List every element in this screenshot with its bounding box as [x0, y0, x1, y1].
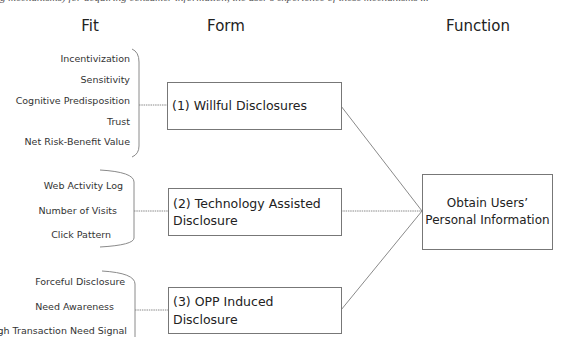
form-box-opp-induced-disclosure: (3) OPP Induced Disclosure	[168, 287, 342, 334]
fit-item: High Transaction Need Signal	[0, 325, 127, 336]
form-label: (3) OPP Induced Disclosure	[173, 293, 341, 328]
header-form: Form	[207, 17, 245, 35]
form-label: (1) Willful Disclosures	[172, 97, 307, 115]
form-to-function-3	[341, 211, 422, 310]
form-box-willful-disclosures: (1) Willful Disclosures	[167, 82, 342, 130]
function-box-obtain-personal-information: Obtain Users’ Personal Information	[422, 174, 553, 250]
fit-item: Forceful Disclosure	[35, 276, 125, 287]
form-to-function-1	[341, 106, 422, 211]
fit-bracket-1	[132, 49, 139, 157]
form-box-technology-assisted-disclosure: (2) Technology Assisted Disclosure	[168, 188, 342, 236]
header-function: Function	[446, 17, 510, 35]
fit-item: Need Awareness	[35, 301, 114, 312]
function-label-line2: Personal Information	[425, 212, 549, 229]
function-label-line1: Obtain Users’	[425, 195, 549, 212]
form-label: (2) Technology Assisted Disclosure	[173, 195, 321, 230]
fit-group-3: Forceful Disclosure Need Awareness High …	[0, 0, 127, 337]
